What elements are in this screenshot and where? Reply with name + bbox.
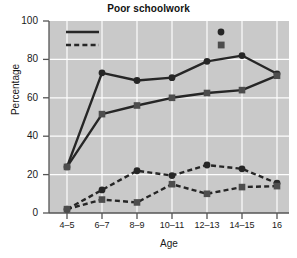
data-point-square <box>134 199 141 206</box>
data-point-circle <box>204 58 211 65</box>
data-point-circle <box>99 187 106 194</box>
data-point-circle <box>169 74 176 81</box>
data-point-circle <box>134 77 141 84</box>
data-point-square <box>169 95 176 102</box>
data-point-square <box>99 111 106 118</box>
data-point-circle <box>99 69 106 76</box>
data-point-square <box>239 87 246 94</box>
data-point-circle <box>169 172 176 179</box>
data-point-circle <box>134 167 141 174</box>
data-point-circle <box>204 162 211 169</box>
data-point-square <box>204 191 211 198</box>
x-axis-ticks <box>67 213 277 219</box>
data-point-square <box>274 72 281 79</box>
legend-swatch-circle-marker <box>218 29 225 36</box>
chart-figure: Poor schoolwork Percentage Age 100 80 60… <box>0 0 297 258</box>
data-point-square <box>64 164 71 171</box>
y-axis-ticks <box>43 21 49 213</box>
data-point-square <box>64 206 71 213</box>
data-point-square <box>169 181 176 188</box>
data-point-circle <box>239 165 246 172</box>
data-point-square <box>134 102 141 109</box>
data-point-circle <box>239 52 246 59</box>
plot-area <box>0 0 297 258</box>
data-point-square <box>239 184 246 191</box>
data-point-square <box>204 90 211 97</box>
data-point-square <box>99 196 106 203</box>
legend-swatch-square-marker <box>218 42 225 49</box>
data-point-square <box>274 183 281 190</box>
